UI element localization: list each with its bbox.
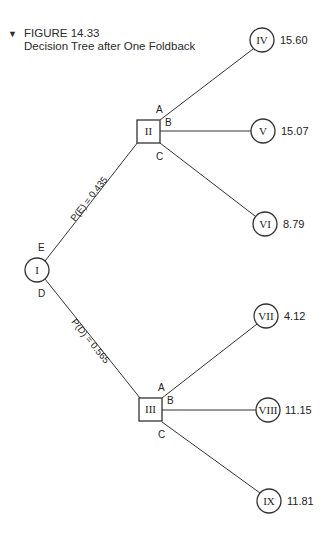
probability-d: P(D) = 0.565 — [69, 316, 112, 365]
branch-label-a-bottom: A — [158, 382, 165, 393]
payoff-ix: 11.81 — [287, 495, 314, 507]
edge-ii-vi — [160, 143, 255, 216]
branch-label-c-bottom: C — [158, 429, 165, 440]
payoff-v: 15.07 — [281, 125, 309, 137]
branch-label-b-bottom: B — [167, 395, 174, 406]
edge-iii-vii — [162, 324, 257, 398]
node-label-ii: II — [145, 125, 153, 137]
branch-label-e: E — [38, 242, 45, 253]
payoff-iv: 15.60 — [280, 34, 308, 46]
node-label-viii: VIII — [259, 404, 278, 416]
edge-ii-iv — [160, 49, 253, 120]
node-label-vii: VII — [258, 310, 274, 322]
branch-label-c-top: C — [156, 151, 163, 162]
node-label-i: I — [35, 264, 39, 276]
probability-e: P(E) = 0.435 — [68, 174, 110, 223]
branch-label-d: D — [38, 288, 45, 299]
payoff-vi: 8.79 — [283, 218, 304, 230]
branch-label-a-top: A — [156, 104, 163, 115]
node-label-ix: IX — [263, 495, 275, 507]
node-label-v: V — [259, 125, 267, 137]
node-label-vi: VI — [259, 218, 271, 230]
node-label-iv: IV — [256, 34, 268, 46]
edge-iii-ix — [162, 422, 260, 493]
payoff-viii: 11.15 — [285, 404, 312, 416]
branch-label-b-top: B — [165, 117, 172, 128]
node-label-iii: III — [145, 403, 156, 415]
decision-tree: I II III IV V VI VII VIII IX 15.60 15.07… — [0, 0, 323, 542]
payoff-vii: 4.12 — [284, 310, 305, 322]
